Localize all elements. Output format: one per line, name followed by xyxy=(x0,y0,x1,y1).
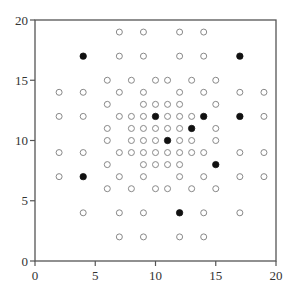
open-point xyxy=(177,150,183,156)
open-point xyxy=(165,150,171,156)
filled-point xyxy=(176,210,182,216)
open-point xyxy=(165,77,171,83)
filled-point xyxy=(80,173,86,179)
open-point xyxy=(165,101,171,107)
open-point xyxy=(165,113,171,119)
open-point xyxy=(80,210,86,216)
open-point xyxy=(116,210,122,216)
y-tick-label: 10 xyxy=(15,133,28,148)
x-tick-label: 20 xyxy=(270,268,283,283)
filled-point xyxy=(80,53,86,59)
open-point xyxy=(140,29,146,35)
open-point xyxy=(177,101,183,107)
open-point xyxy=(189,186,195,192)
open-point xyxy=(140,210,146,216)
open-point xyxy=(153,125,159,131)
open-point xyxy=(80,150,86,156)
open-point xyxy=(261,113,267,119)
open-point xyxy=(201,89,207,95)
open-point xyxy=(140,162,146,168)
open-point xyxy=(201,29,207,35)
open-point xyxy=(140,113,146,119)
open-point xyxy=(128,77,134,83)
open-point xyxy=(177,29,183,35)
open-point xyxy=(177,234,183,240)
open-point xyxy=(140,234,146,240)
open-point xyxy=(213,101,219,107)
open-point xyxy=(56,113,62,119)
x-tick-label: 0 xyxy=(32,268,39,283)
open-point xyxy=(153,150,159,156)
open-point xyxy=(104,101,110,107)
open-point xyxy=(116,89,122,95)
x-tick-label: 5 xyxy=(92,268,99,283)
open-point xyxy=(189,150,195,156)
open-point xyxy=(201,53,207,59)
open-point xyxy=(104,77,110,83)
y-tick-label: 20 xyxy=(15,13,28,28)
open-point xyxy=(165,125,171,131)
open-point xyxy=(213,186,219,192)
open-point xyxy=(140,101,146,107)
open-point xyxy=(177,138,183,144)
open-point xyxy=(165,162,171,168)
open-point xyxy=(116,53,122,59)
open-point xyxy=(140,174,146,180)
open-point xyxy=(116,150,122,156)
filled-point xyxy=(237,53,243,59)
filled-point xyxy=(164,137,170,143)
open-point xyxy=(153,186,159,192)
open-point xyxy=(177,174,183,180)
open-point xyxy=(128,186,134,192)
open-point xyxy=(140,53,146,59)
open-point xyxy=(201,210,207,216)
open-point xyxy=(237,174,243,180)
open-point xyxy=(189,77,195,83)
open-point xyxy=(153,138,159,144)
y-tick-label: 5 xyxy=(22,193,29,208)
filled-point xyxy=(213,161,219,167)
open-point xyxy=(128,113,134,119)
open-point xyxy=(56,89,62,95)
open-point xyxy=(104,162,110,168)
open-point xyxy=(104,125,110,131)
open-point xyxy=(153,162,159,168)
filled-point xyxy=(237,113,243,119)
open-point xyxy=(177,89,183,95)
open-point xyxy=(116,113,122,119)
open-point xyxy=(104,186,110,192)
open-point xyxy=(213,77,219,83)
open-point xyxy=(177,113,183,119)
x-tick-label: 15 xyxy=(209,268,222,283)
open-point xyxy=(80,113,86,119)
open-point xyxy=(140,150,146,156)
open-point xyxy=(237,89,243,95)
open-point xyxy=(56,174,62,180)
open-point xyxy=(237,210,243,216)
open-point xyxy=(104,138,110,144)
open-point xyxy=(177,125,183,131)
open-point xyxy=(128,138,134,144)
open-point xyxy=(189,113,195,119)
scatter-chart: 0510152005101520 xyxy=(0,0,297,291)
open-point xyxy=(116,234,122,240)
y-tick-label: 15 xyxy=(15,73,28,88)
open-point xyxy=(56,150,62,156)
filled-point xyxy=(152,113,158,119)
open-point xyxy=(80,89,86,95)
filled-point xyxy=(201,113,207,119)
open-point xyxy=(140,138,146,144)
y-tick-label: 0 xyxy=(22,254,29,269)
x-tick-label: 10 xyxy=(149,268,162,283)
open-point xyxy=(165,186,171,192)
open-point xyxy=(128,125,134,131)
open-point xyxy=(128,150,134,156)
open-point xyxy=(237,150,243,156)
open-point xyxy=(201,174,207,180)
open-point xyxy=(116,29,122,35)
open-point xyxy=(177,53,183,59)
open-point xyxy=(261,150,267,156)
filled-point xyxy=(188,125,194,131)
open-point xyxy=(140,89,146,95)
open-point xyxy=(177,162,183,168)
